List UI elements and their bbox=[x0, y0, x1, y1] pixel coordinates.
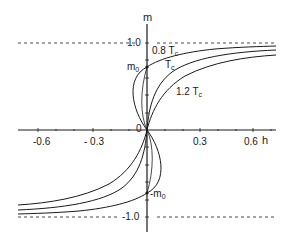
y-tick-label-1: 1.0 bbox=[127, 38, 141, 48]
neg-m0-label-main: -m bbox=[150, 188, 162, 199]
m0-label-sub: 0 bbox=[135, 66, 139, 73]
x-tick-label-neg06: -0.6 bbox=[33, 137, 50, 147]
curve-label-0.8tc: 0.8 Tc bbox=[152, 46, 178, 56]
curve-label-tc-sub: c bbox=[171, 64, 175, 71]
neg-m0-marker bbox=[145, 191, 148, 194]
x-tick-label-03: 0.3 bbox=[193, 137, 207, 147]
x-tick-label-06: 0.6 bbox=[244, 137, 258, 147]
m0-marker bbox=[145, 65, 148, 68]
neg-m0-label-sub: 0 bbox=[162, 193, 166, 200]
y-axis-label: m bbox=[143, 12, 152, 23]
neg-m0-label: -m0 bbox=[150, 189, 166, 199]
x-axis-label: h bbox=[262, 135, 268, 146]
curve-label-1.2tc-sub: c bbox=[199, 91, 203, 98]
curve-label-0.8tc-sub: c bbox=[175, 50, 179, 57]
curve-label-tc: Tc bbox=[165, 60, 175, 70]
magnetization-chart bbox=[0, 0, 291, 248]
curve-label-0.8tc-main: 0.8 T bbox=[152, 45, 175, 56]
m0-label: m0 bbox=[127, 62, 139, 72]
y-tick-label-neg1: -1.0 bbox=[122, 212, 139, 222]
curve-label-1.2tc-main: 1.2 T bbox=[176, 86, 199, 97]
curve-0.8tc-inner-right bbox=[147, 130, 152, 193]
curve-label-1.2tc: 1.2 Tc bbox=[176, 87, 202, 97]
origin-label: 0 bbox=[136, 124, 142, 134]
curve-0.8tc-inner-left bbox=[142, 67, 147, 130]
x-tick-label-neg03: - 0.3 bbox=[84, 137, 104, 147]
